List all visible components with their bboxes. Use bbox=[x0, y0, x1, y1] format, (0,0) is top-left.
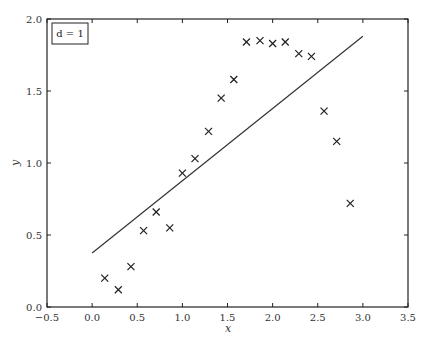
data-point-x-marker bbox=[166, 224, 173, 231]
x-tick-label: 0.5 bbox=[129, 312, 145, 323]
y-tick-label: 1.0 bbox=[26, 158, 42, 169]
y-tick-label: 2.0 bbox=[26, 14, 42, 25]
axis-ticks: −0.50.00.51.01.52.02.53.03.50.00.51.01.5… bbox=[26, 14, 416, 323]
chart: −0.50.00.51.01.52.02.53.03.50.00.51.01.5… bbox=[0, 0, 430, 347]
data-point-x-marker bbox=[282, 39, 289, 46]
x-tick-label: 0.0 bbox=[84, 312, 100, 323]
plot-area bbox=[92, 36, 363, 293]
data-point-x-marker bbox=[101, 275, 108, 282]
data-point-x-marker bbox=[256, 37, 263, 44]
data-point-x-marker bbox=[230, 76, 237, 83]
x-tick-label: 3.0 bbox=[355, 312, 371, 323]
data-point-x-marker bbox=[140, 227, 147, 234]
legend-box: d = 1 bbox=[52, 23, 88, 44]
x-tick-label: 1.0 bbox=[174, 312, 190, 323]
legend-label: d = 1 bbox=[56, 28, 84, 39]
data-point-x-marker bbox=[333, 138, 340, 145]
data-point-x-marker bbox=[347, 200, 354, 207]
data-point-x-marker bbox=[321, 108, 328, 115]
data-point-x-marker bbox=[218, 95, 225, 102]
y-axis-label: y bbox=[9, 159, 22, 167]
data-point-x-marker bbox=[179, 170, 186, 177]
y-tick-label: 0.5 bbox=[26, 230, 42, 241]
axes-frame bbox=[47, 19, 408, 307]
data-point-x-marker bbox=[115, 286, 122, 293]
data-point-x-marker bbox=[192, 155, 199, 162]
x-tick-label: 2.5 bbox=[310, 312, 326, 323]
x-tick-label: −0.5 bbox=[35, 312, 59, 323]
data-point-x-marker bbox=[269, 40, 276, 47]
data-point-x-marker bbox=[308, 53, 315, 60]
x-tick-label: 3.5 bbox=[400, 312, 416, 323]
data-point-x-marker bbox=[243, 39, 250, 46]
data-point-x-marker bbox=[127, 263, 134, 270]
y-tick-label: 1.5 bbox=[26, 86, 42, 97]
data-point-x-marker bbox=[205, 128, 212, 135]
data-point-x-marker bbox=[295, 50, 302, 57]
x-axis-label: x bbox=[225, 322, 232, 335]
fit-line bbox=[92, 36, 363, 253]
y-tick-label: 0.0 bbox=[26, 302, 42, 313]
x-tick-label: 2.0 bbox=[265, 312, 281, 323]
data-point-x-marker bbox=[153, 208, 160, 215]
